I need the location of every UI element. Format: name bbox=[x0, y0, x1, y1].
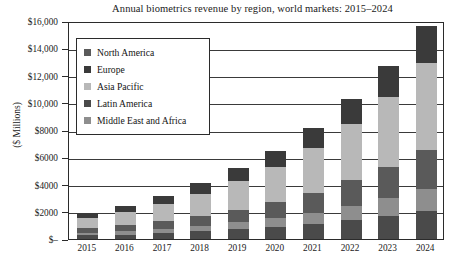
y-axis-tick-label: $12,000 bbox=[0, 72, 58, 82]
y-axis-tick-label: $10,000 bbox=[0, 99, 58, 109]
y-axis-tick-label: $8000 bbox=[0, 126, 58, 136]
bar-segment[interactable] bbox=[303, 148, 324, 193]
legend-swatch-icon bbox=[84, 49, 91, 56]
bar-segment[interactable] bbox=[303, 213, 324, 224]
bar-segment[interactable] bbox=[228, 210, 249, 223]
bar-stack[interactable] bbox=[378, 66, 399, 239]
x-axis-tick-label: 2023 bbox=[378, 243, 397, 253]
y-axis-tick-label: $– bbox=[0, 235, 58, 245]
chart-container: Annual biometrics revenue by region, wor… bbox=[0, 0, 452, 271]
bar-segment[interactable] bbox=[265, 218, 286, 227]
bar-segment[interactable] bbox=[153, 233, 174, 239]
bar-stack[interactable] bbox=[77, 213, 98, 239]
bar-segment[interactable] bbox=[378, 198, 399, 216]
bar-segment[interactable] bbox=[228, 222, 249, 229]
bar-segment[interactable] bbox=[115, 212, 136, 225]
bar-segment[interactable] bbox=[341, 99, 362, 124]
bar-segment[interactable] bbox=[190, 194, 211, 216]
y-axis-tick-label: $4000 bbox=[0, 181, 58, 191]
bar-stack[interactable] bbox=[115, 206, 136, 239]
bar-segment[interactable] bbox=[416, 189, 437, 211]
legend-item-label: Middle East and Africa bbox=[97, 116, 186, 126]
bar-segment[interactable] bbox=[416, 211, 437, 239]
bar-segment[interactable] bbox=[77, 235, 98, 239]
bar-segment[interactable] bbox=[378, 167, 399, 198]
legend-swatch-icon bbox=[84, 100, 91, 107]
bar-stack[interactable] bbox=[153, 196, 174, 239]
bar-stack[interactable] bbox=[341, 99, 362, 239]
bar-segment[interactable] bbox=[341, 124, 362, 181]
legend-item-label: Latin America bbox=[97, 99, 152, 109]
bar-segment[interactable] bbox=[341, 220, 362, 239]
bar-stack[interactable] bbox=[303, 128, 324, 239]
bar-segment[interactable] bbox=[416, 150, 437, 189]
legend-swatch-icon bbox=[84, 83, 91, 90]
x-axis-tick-label: 2017 bbox=[153, 243, 172, 253]
bar-stack[interactable] bbox=[265, 151, 286, 239]
bar-stack[interactable] bbox=[416, 26, 437, 239]
bar-segment[interactable] bbox=[265, 167, 286, 202]
bar-segment[interactable] bbox=[190, 183, 211, 193]
legend-item[interactable]: North America bbox=[84, 44, 203, 61]
x-axis-tick-label: 2016 bbox=[115, 243, 134, 253]
bar-stack[interactable] bbox=[190, 183, 211, 239]
y-axis-tick-label: $14,000 bbox=[0, 44, 58, 54]
bar-segment[interactable] bbox=[265, 151, 286, 167]
y-axis-tick-label: $2000 bbox=[0, 208, 58, 218]
legend-item[interactable]: Asia Pacific bbox=[84, 78, 203, 95]
bar-segment[interactable] bbox=[303, 128, 324, 148]
bar-segment[interactable] bbox=[378, 216, 399, 239]
x-axis-tick-label: 2018 bbox=[190, 243, 209, 253]
legend-swatch-icon bbox=[84, 66, 91, 73]
bar-segment[interactable] bbox=[303, 193, 324, 213]
bar-segment[interactable] bbox=[265, 227, 286, 239]
legend-swatch-icon bbox=[84, 117, 91, 124]
legend-item[interactable]: Middle East and Africa bbox=[84, 112, 203, 129]
bar-segment[interactable] bbox=[115, 235, 136, 239]
x-axis-tick-label: 2024 bbox=[416, 243, 435, 253]
y-axis-tick-label: $16,000 bbox=[0, 17, 58, 27]
x-axis-tick-label: 2019 bbox=[228, 243, 247, 253]
bar-segment[interactable] bbox=[416, 63, 437, 150]
bar-segment[interactable] bbox=[190, 231, 211, 239]
bar-segment[interactable] bbox=[416, 26, 437, 63]
bar-segment[interactable] bbox=[228, 168, 249, 181]
bar-segment[interactable] bbox=[341, 206, 362, 220]
bar-segment[interactable] bbox=[228, 181, 249, 209]
legend-item[interactable]: Latin America bbox=[84, 95, 203, 112]
x-axis-tick-label: 2020 bbox=[266, 243, 285, 253]
chart-legend: North AmericaEuropeAsia PacificLatin Ame… bbox=[76, 38, 210, 135]
bar-segment[interactable] bbox=[153, 221, 174, 229]
bar-segment[interactable] bbox=[153, 204, 174, 221]
bar-segment[interactable] bbox=[341, 180, 362, 205]
bar-segment[interactable] bbox=[228, 229, 249, 239]
bar-stack[interactable] bbox=[228, 168, 249, 239]
bar-segment[interactable] bbox=[378, 97, 399, 167]
bar-segment[interactable] bbox=[190, 216, 211, 226]
legend-item-label: Asia Pacific bbox=[97, 82, 144, 92]
bar-segment[interactable] bbox=[303, 224, 324, 239]
chart-title: Annual biometrics revenue by region, wor… bbox=[60, 3, 445, 14]
x-axis-tick-label: 2022 bbox=[341, 243, 360, 253]
bar-segment[interactable] bbox=[153, 196, 174, 204]
x-axis-tick-label: 2021 bbox=[303, 243, 322, 253]
legend-item[interactable]: Europe bbox=[84, 61, 203, 78]
x-axis-tick-label: 2015 bbox=[78, 243, 97, 253]
bar-segment[interactable] bbox=[378, 66, 399, 97]
bar-segment[interactable] bbox=[77, 218, 98, 228]
bar-segment[interactable] bbox=[265, 202, 286, 218]
y-axis-tick-label: $6000 bbox=[0, 153, 58, 163]
legend-item-label: Europe bbox=[97, 65, 125, 75]
legend-item-label: North America bbox=[97, 48, 154, 58]
